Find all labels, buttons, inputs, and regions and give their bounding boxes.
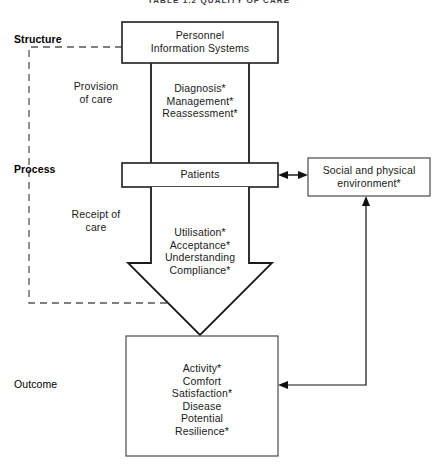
outcome-item-5: Potential xyxy=(126,412,278,425)
tier-label-process: Process xyxy=(14,163,56,175)
receipt-item-2: Acceptance* xyxy=(152,239,248,252)
outcome-item-4: Disease xyxy=(126,400,278,413)
receipt-item-1: Utilisation* xyxy=(152,226,248,239)
outcome-environment-feedback-arrow xyxy=(278,196,370,389)
patients-line-1: Patients xyxy=(122,168,278,181)
receipt-items-label: Utilisation* Acceptance* Understanding C… xyxy=(152,226,248,276)
receipt-line-1: Receipt of xyxy=(48,208,144,221)
environment-line-1: Social and physical xyxy=(308,164,430,177)
diagram-canvas: TABLE 1.2 QUALITY OF CARE xyxy=(0,0,438,466)
provision-of-care-label: Provision of care xyxy=(48,80,144,105)
tier-label-structure: Structure xyxy=(14,33,62,45)
patients-environment-arrow xyxy=(278,171,308,179)
receipt-item-4: Compliance* xyxy=(152,264,248,277)
receipt-line-2: care xyxy=(48,221,144,234)
outcome-item-6: Resilience* xyxy=(126,425,278,438)
process-item-1: Diagnosis* xyxy=(152,82,248,95)
provision-line-1: Provision xyxy=(48,80,144,93)
personnel-line-2: Information Systems xyxy=(122,42,278,55)
environment-box-label: Social and physical environment* xyxy=(308,164,430,189)
receipt-of-care-label: Receipt of care xyxy=(48,208,144,233)
process-item-2: Management* xyxy=(152,95,248,108)
personnel-line-1: Personnel xyxy=(122,29,278,42)
receipt-item-3: Understanding xyxy=(152,251,248,264)
outcome-item-3: Satisfaction* xyxy=(126,387,278,400)
tier-label-outcome: Outcome xyxy=(14,378,57,390)
patients-box-label: Patients xyxy=(122,168,278,181)
outcome-item-1: Activity* xyxy=(126,362,278,375)
personnel-box-label: Personnel Information Systems xyxy=(122,29,278,54)
provision-line-2: of care xyxy=(48,93,144,106)
process-item-3: Reassessment* xyxy=(152,107,248,120)
outcome-item-2: Comfort xyxy=(126,375,278,388)
process-items-label: Diagnosis* Management* Reassessment* xyxy=(152,82,248,120)
outcome-box-label: Activity* Comfort Satisfaction* Disease … xyxy=(126,362,278,437)
environment-line-2: environment* xyxy=(308,177,430,190)
